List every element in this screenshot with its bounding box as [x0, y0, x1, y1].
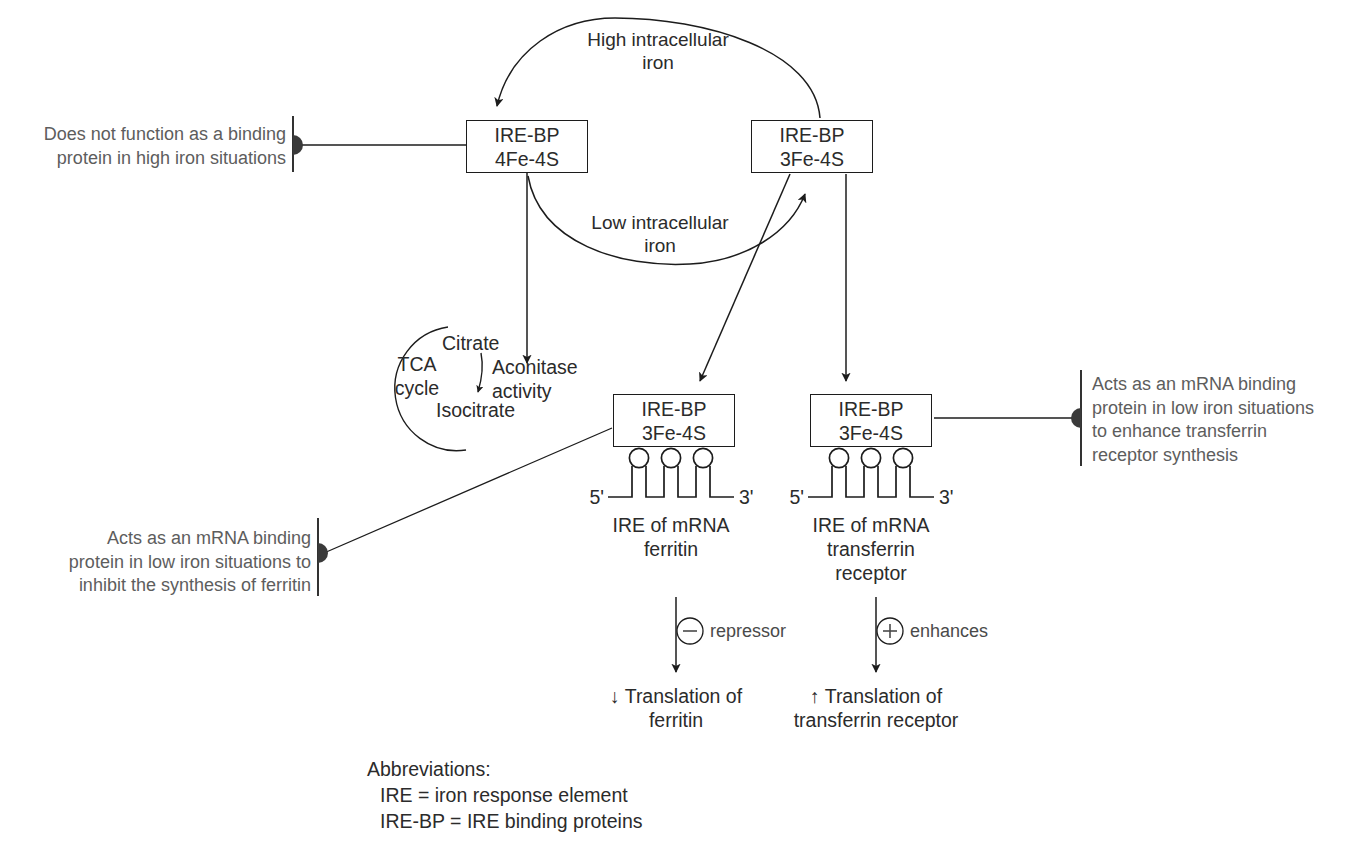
abbreviations-block: Abbreviations: IRE = iron response eleme…: [367, 757, 630, 829]
label-ferritin-five-prime: 5': [589, 485, 604, 509]
diagram-canvas: High intracellular iron Low intracellula…: [0, 0, 1370, 853]
box-ire-bp-ferritin-line1: IRE-BP: [641, 397, 706, 421]
bulb-bottom-left: [318, 543, 328, 563]
box-ire-bp-ferritin-complex[interactable]: IRE-BP 3Fe-4S: [613, 394, 735, 447]
box-ire-bp-3fe-4s[interactable]: IRE-BP 3Fe-4S: [751, 120, 873, 173]
leader-right-annotation: [934, 370, 1081, 466]
box-ire-bp-transferrin-line1: IRE-BP: [838, 397, 903, 421]
label-aconitase-activity: Aconitase activity: [492, 355, 578, 403]
label-enhances: enhances: [910, 620, 988, 644]
caption-ire-mrna-transferrin: IRE of mRNA transferrin receptor: [756, 513, 986, 585]
label-high-intracellular-iron: High intracellular iron: [543, 28, 773, 74]
label-low-intracellular-iron: Low intracellular iron: [545, 211, 775, 257]
abbreviations-heading: Abbreviations:: [367, 757, 630, 781]
abbreviation-ire: IRE = iron response element: [380, 783, 643, 807]
box-ire-bp-3fe-4s-line2: 3Fe-4S: [780, 147, 844, 171]
label-tca-cycle: TCA cycle: [362, 352, 472, 400]
box-ire-bp-4fe-4s-line2: 4Fe-4S: [495, 147, 559, 171]
leader-top-left-annotation: [293, 116, 466, 172]
ire-hairpin-transferrin: [808, 448, 934, 497]
label-ferritin-three-prime: 3': [739, 485, 754, 509]
annotation-right: Acts as an mRNA binding protein in low i…: [1092, 373, 1362, 467]
bulb-right: [1071, 408, 1081, 428]
annotation-top-left: Does not function as a binding protein i…: [0, 123, 286, 170]
ire-hairpin-ferritin: [608, 448, 734, 497]
outcome-translation-transferrin: ↑ Translation of transferrin receptor: [726, 684, 1026, 732]
arrow-to-ferritin-ire-complex: [700, 174, 790, 381]
label-transferrin-five-prime: 5': [789, 485, 804, 509]
box-ire-bp-transferrin-complex[interactable]: IRE-BP 3Fe-4S: [810, 394, 932, 447]
label-transferrin-three-prime: 3': [939, 485, 954, 509]
box-ire-bp-4fe-4s-line1: IRE-BP: [494, 123, 559, 147]
bulb-top-left: [293, 135, 303, 155]
abbreviation-ire-bp: IRE-BP = IRE binding proteins: [380, 809, 643, 833]
box-ire-bp-transferrin-line2: 3Fe-4S: [839, 421, 903, 445]
box-ire-bp-3fe-4s-line1: IRE-BP: [779, 123, 844, 147]
caption-ire-mrna-ferritin: IRE of mRNA ferritin: [556, 513, 786, 561]
box-ire-bp-4fe-4s[interactable]: IRE-BP 4Fe-4S: [466, 120, 588, 173]
label-repressor: repressor: [710, 620, 786, 644]
box-ire-bp-ferritin-line2: 3Fe-4S: [642, 421, 706, 445]
label-citrate: Citrate: [442, 331, 499, 355]
annotation-bottom-left: Acts as an mRNA binding protein in low i…: [0, 527, 311, 598]
arrow-citrate-to-isocitrate: [478, 353, 482, 392]
leader-bottom-left-annotation: [318, 428, 612, 596]
